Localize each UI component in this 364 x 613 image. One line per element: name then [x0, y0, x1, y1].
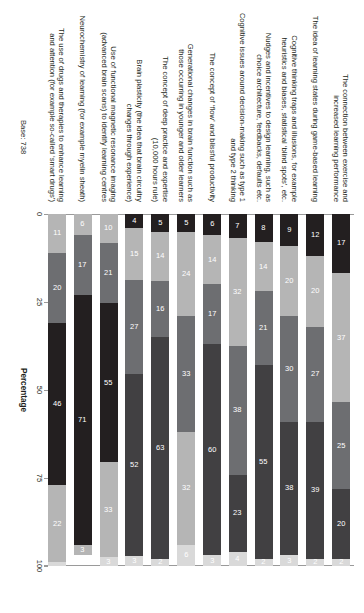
- bar-segment: 14: [203, 235, 221, 284]
- category-label: The use of drugs and therapies to enhanc…: [44, 0, 70, 208]
- category-label: Nudges and incentives to design learning…: [251, 0, 277, 208]
- bar-segment-value: 39: [311, 487, 319, 495]
- bar-segment-value: 20: [53, 284, 61, 292]
- category-label-text: The idea of learning states during game-…: [311, 16, 320, 202]
- bar-row: 61417603: [199, 214, 225, 566]
- bar-segment: [48, 562, 66, 566]
- bar-segment-value: 55: [259, 458, 267, 466]
- bar-segment: 38: [229, 346, 247, 475]
- bar-segment-value: 24: [182, 270, 190, 278]
- bar-segment: 3: [74, 545, 92, 556]
- bar-segment-value: 15: [130, 250, 138, 258]
- bar-segment: 2: [306, 559, 324, 566]
- base-note: Base: 738: [19, 120, 28, 154]
- category-label-text: Neurochemistry of learning (for example …: [78, 15, 87, 202]
- bar-segment-value: 2: [158, 559, 162, 566]
- category-label: Brain plasticity (the idea that brain ci…: [122, 0, 148, 208]
- bar-segment-value: 23: [234, 510, 242, 518]
- bar-row: 81421552: [251, 214, 277, 566]
- bar-segment: 7: [229, 214, 247, 238]
- bar-segment-value: 8: [261, 224, 265, 232]
- bar-segment: 20: [280, 246, 298, 316]
- bar-segment: 15: [125, 228, 143, 280]
- bar-segment: 55: [255, 365, 273, 559]
- category-label: Cognitive thinking traps and illusions, …: [277, 0, 303, 208]
- bar-segment-value: 46: [53, 400, 61, 408]
- bar-segment-value: 2: [313, 559, 317, 566]
- bar-segment-value: 32: [182, 485, 190, 493]
- bar-segment: 20: [332, 489, 350, 559]
- bar-segment-value: 3: [132, 557, 136, 565]
- bar-segment: 14: [255, 242, 273, 291]
- bar-segment: 27: [306, 327, 324, 422]
- stacked-bar: 73238234: [229, 214, 247, 566]
- bar-segment-value: 3: [287, 557, 291, 565]
- category-label-text: Cognitive issues around decision-making …: [229, 13, 248, 202]
- bar-segment-value: 10: [104, 225, 112, 233]
- bar-segment: 25: [332, 402, 350, 489]
- bar-segment: 23: [229, 475, 247, 553]
- category-label-text: Nudges and incentives to design learning…: [254, 33, 273, 202]
- bar-row: 173725202: [328, 214, 354, 566]
- category-label: The concept of deep practice and experti…: [147, 0, 173, 208]
- bar-segment: 9: [280, 214, 298, 246]
- x-tick-label: 50: [35, 386, 44, 394]
- stacked-bar: 41527523: [125, 214, 143, 566]
- bar-segment-value: 4: [236, 555, 240, 563]
- bar-segment-value: 20: [311, 288, 319, 296]
- bar-segment-value: 6: [81, 221, 85, 229]
- bar-segment-value: 33: [104, 506, 112, 514]
- bar-segment-value: 33: [182, 370, 190, 378]
- bar-segment-value: 3: [210, 557, 214, 565]
- stacked-bar: 81421552: [255, 214, 273, 566]
- bar-segment: 4: [229, 552, 247, 566]
- category-label: The connection between exercise andincre…: [328, 0, 354, 208]
- bar-row: 73238234: [225, 214, 251, 566]
- bar-segment-value: 6: [184, 552, 188, 560]
- bar-segment: 2: [255, 559, 273, 566]
- stacked-bar: 617713: [74, 214, 92, 566]
- stacked-bar: 52433326: [177, 214, 195, 566]
- category-label-text: Generational changes in brain function s…: [177, 44, 196, 202]
- bar-segment-value: 4: [132, 217, 136, 225]
- bar-segment-value: 22: [53, 520, 61, 528]
- x-tick-label: 25: [35, 298, 44, 306]
- bar-segment: 33: [100, 462, 118, 557]
- bar-segment: 37: [332, 273, 350, 402]
- bar-segment-value: 27: [311, 370, 319, 378]
- bar-row: 122027392: [302, 214, 328, 566]
- stacked-bar: 61417603: [203, 214, 221, 566]
- category-label: Use of functional magnetic resonance ima…: [96, 0, 122, 208]
- bar-segment-value: 2: [339, 559, 343, 566]
- bar-segment-value: 6: [210, 221, 214, 229]
- bar-segment: 30: [280, 316, 298, 422]
- bar-segment-value: 14: [208, 256, 216, 264]
- bar-segment-value: 16: [156, 305, 164, 313]
- bar-segment: 17: [74, 235, 92, 295]
- bar-segment-value: 2: [261, 559, 265, 566]
- category-label-text: The use of drugs and therapies to enhanc…: [48, 28, 67, 202]
- bar-segment: 2: [151, 559, 169, 566]
- category-label-text: The concept of deep practice and experti…: [151, 56, 170, 202]
- category-label-text: The connection between exercise andincre…: [332, 74, 351, 202]
- bar-segment: 4: [125, 214, 143, 228]
- stacked-bar: 92030383: [280, 214, 298, 566]
- bar-row: 617713: [70, 214, 96, 566]
- bar-segment-value: 21: [104, 269, 112, 277]
- category-labels: The connection between exercise andincre…: [44, 0, 354, 208]
- bar-segment-value: 20: [337, 520, 345, 528]
- x-tick-label: 100: [35, 560, 44, 573]
- bar-segment: 17: [332, 214, 350, 273]
- bar-segment: 32: [229, 238, 247, 346]
- bar-row: 52433326: [173, 214, 199, 566]
- bar-segment-value: 71: [79, 416, 87, 424]
- bar-segment: 21: [255, 291, 273, 365]
- bar-segment: 60: [203, 344, 221, 555]
- bar-row: 51416632: [147, 214, 173, 566]
- stacked-bar: 11204622: [48, 214, 66, 566]
- category-label: Cognitive issues around decision-making …: [225, 0, 251, 208]
- bar-segment: 11: [48, 214, 66, 253]
- bar-segment-value: 12: [311, 231, 319, 239]
- chart-stage: The connection between exercise andincre…: [0, 0, 364, 613]
- bar-segment: 6: [74, 214, 92, 235]
